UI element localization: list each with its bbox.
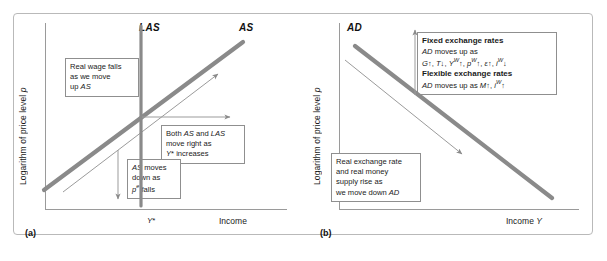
panel-b-x-axis-title: Income Y (506, 216, 542, 226)
panel-a: Logarithm of price level p Income Y* LAS… (13, 13, 307, 235)
panel-b-name: (b) (320, 228, 332, 238)
panel-a-x-axis (45, 209, 287, 210)
curve-label-as: AS (239, 22, 254, 33)
note-real-wage: Real wage falls as we move up AS (65, 58, 139, 97)
panel-a-y-axis (45, 23, 46, 209)
panel-b-y-axis-label: Logarithm of price level p (312, 35, 322, 185)
panel-a-y-axis-label: Logarithm of price level p (18, 35, 28, 185)
note-both-move-right: Both AS and LAS move right as Y* increas… (161, 125, 245, 164)
note-exchange-rates: Fixed exchange rates AD moves up as G↑, … (417, 32, 557, 95)
panel-a-x-tick-ystar: Y* (147, 216, 155, 225)
note-as-moves-down: AS moves down as pe falls (127, 159, 181, 199)
note-real-exchange-rate: Real exchange rate and real money supply… (331, 153, 421, 202)
figure-container: Logarithm of price level p Income Y* LAS… (0, 0, 607, 261)
curve-label-las: LAS (139, 22, 160, 33)
panel-a-name: (a) (25, 228, 36, 238)
panel-b-x-axis (339, 209, 579, 210)
panel-b: Logarithm of price level p Income Y AD F… (307, 13, 593, 235)
curve-label-ad: AD (347, 22, 362, 33)
panel-a-x-axis-title: Income (219, 216, 247, 226)
